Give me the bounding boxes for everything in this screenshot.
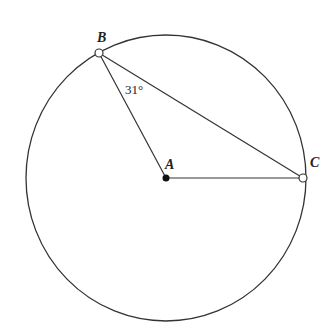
circle-diagram: B A C 31°: [0, 0, 336, 332]
label-c: C: [310, 155, 320, 170]
point-b-dot: [95, 49, 103, 57]
point-c-dot: [299, 174, 307, 182]
angle-label: 31°: [125, 82, 143, 97]
segment-ab: [99, 53, 166, 178]
label-b: B: [96, 30, 106, 45]
segment-bc: [99, 53, 303, 178]
label-a: A: [164, 157, 174, 172]
point-a-dot: [163, 175, 170, 182]
